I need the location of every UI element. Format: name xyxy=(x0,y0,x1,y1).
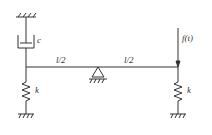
left-segment-label: l/2 xyxy=(56,56,66,65)
damper-label: c xyxy=(37,36,41,45)
top-ground-support xyxy=(16,13,36,17)
beam-system-diagram xyxy=(0,0,212,135)
right-segment-label: l/2 xyxy=(124,56,134,65)
force-label: f(t) xyxy=(182,34,193,43)
damper xyxy=(18,17,34,67)
right-spring-label: k xyxy=(187,86,191,95)
force-arrow xyxy=(176,28,180,67)
left-spring xyxy=(18,67,34,118)
pivot-support xyxy=(89,67,107,83)
right-spring xyxy=(170,67,186,118)
left-spring-label: k xyxy=(35,86,39,95)
